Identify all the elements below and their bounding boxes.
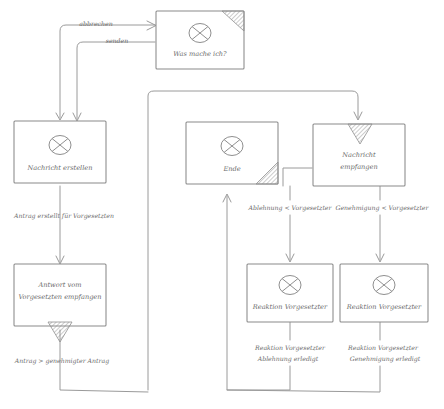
node-label-line2: Vorgesetzten empfangen — [18, 293, 101, 301]
node-label-line1: Antwort vom — [37, 281, 81, 289]
node-label: Reaktion Vorgesetzter — [252, 303, 328, 311]
node-was-mache-ich[interactable]: Was mache ich? — [156, 11, 244, 69]
edge-label-abbrechen: abbrechen — [79, 20, 112, 27]
diagram-canvas: Was mache ich? Nachricht erstellen Ende … — [0, 0, 444, 409]
flowchart-svg: Was mache ich? Nachricht erstellen Ende … — [0, 0, 444, 409]
edge-label-antrag-genehmigt: Antrag > genehmigter Antrag — [14, 357, 109, 365]
edge-genehmigung — [376, 186, 384, 262]
node-label-line2: empfangen — [340, 163, 377, 171]
edge-label-reaktion-ablehnung-l1: Reaktion Vorgesetzter — [254, 344, 326, 352]
node-nachricht-empfangen[interactable]: Nachricht empfangen — [313, 124, 405, 186]
edge-to-reaktion-links — [286, 215, 294, 262]
edge-label-antrag-erstellt: Antrag erstellt für Vorgesetzten — [13, 212, 114, 220]
edge-label-genehmigung: Genehmigung < Vorgesetzter — [336, 204, 430, 212]
edge-label-ablehnung: Ablehnung < Vorgesetzter — [248, 204, 333, 212]
node-antwort-vom-vorgesetzten[interactable]: Antwort vom Vorgesetzten empfangen — [14, 264, 106, 342]
edge-label-reaktion-genehmigung-l1: Reaktion Vorgesetzter — [347, 344, 419, 352]
node-label: Reaktion Vorgesetzter — [346, 303, 422, 311]
node-reaktion-vorgesetzter-links[interactable]: Reaktion Vorgesetzter — [247, 264, 333, 322]
node-ende[interactable]: Ende — [186, 122, 278, 184]
edge-label-reaktion-ablehnung-l2: Ablehnung erledigt — [257, 355, 319, 363]
node-label: Nachricht erstellen — [27, 164, 93, 172]
hatched-triangle-icon — [48, 322, 72, 342]
node-label: Ende — [222, 165, 240, 173]
node-nachricht-erstellen[interactable]: Nachricht erstellen — [14, 121, 106, 183]
edge-label-senden: senden — [106, 37, 128, 44]
edge-label-reaktion-genehmigung-l2: Genehmigung erledigt — [350, 355, 421, 363]
node-label: Was mache ich? — [173, 50, 227, 58]
node-label-line1: Nachricht — [341, 151, 376, 159]
edge-antrag-erstellt — [56, 186, 64, 264]
edge-senden — [73, 42, 155, 121]
edge-ende-to-empfangen-stub — [283, 168, 312, 186]
node-reaktion-vorgesetzter-rechts[interactable]: Reaktion Vorgesetzter — [340, 264, 428, 322]
